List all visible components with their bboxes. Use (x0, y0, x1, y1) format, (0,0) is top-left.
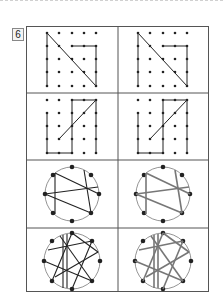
grid-figure-row1-left (46, 32, 98, 88)
circle-figure-row3-left (43, 165, 102, 224)
grid-figure-row2-left (46, 99, 98, 155)
grid-figure-row1-right (137, 32, 189, 88)
circle-figure-row4-right (133, 231, 194, 292)
circle-figure-row3-right (134, 165, 193, 224)
figures-canvas (0, 0, 223, 306)
grid-figure-row2-right (137, 99, 189, 155)
circle-figure-row4-left (42, 231, 103, 292)
